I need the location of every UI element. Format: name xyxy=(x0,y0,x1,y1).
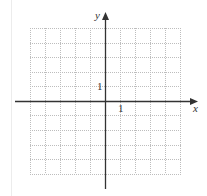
coordinate-plane xyxy=(0,0,207,196)
x-axis xyxy=(15,98,198,105)
y-axis-label: y xyxy=(95,10,100,21)
x-axis-label: x xyxy=(193,103,198,114)
y-tick-label: 1 xyxy=(97,81,103,92)
x-tick-label: 1 xyxy=(118,103,124,114)
y-axis-arrow-icon xyxy=(102,12,109,20)
y-axis xyxy=(102,12,109,189)
